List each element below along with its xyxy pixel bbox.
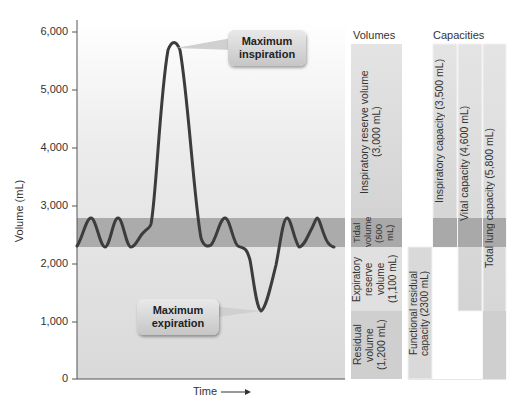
erv-label: Expiratory reserve volume (1,100 mL) (351, 249, 402, 309)
frc-label: Functional residual capacity (2300 mL) (408, 250, 433, 376)
max-inspiration-callout: Maximum inspiration (228, 30, 306, 66)
x-axis-label: Time (193, 385, 217, 397)
volumes-header: Volumes (353, 29, 395, 41)
y-tick-2000: 2,000 (16, 257, 68, 269)
tv-label: Tidal volume (500 mL) (351, 219, 402, 247)
y-tick-marks (72, 32, 77, 379)
ic-band (433, 218, 457, 247)
capacities-header: Capacities (433, 29, 484, 41)
irv-label: Inspiratory reserve volume (3,000 mL) (358, 52, 394, 212)
y-tick-1000: 1,000 (16, 315, 68, 327)
y-tick-6000: 6,000 (16, 25, 68, 37)
max-expiration-callout: Maximum expiration (137, 299, 219, 335)
y-tick-4000: 4,000 (16, 141, 68, 153)
callout-text: expiration (145, 317, 211, 330)
tlc-label: Total lung capacity (5,800 mL) (483, 48, 506, 348)
rv-label: Residual volume (1,200 mL) (351, 313, 402, 377)
y-axis-label: Volume (mL) (13, 180, 25, 242)
callout-text: Maximum (145, 304, 211, 317)
time-arrow-icon (245, 389, 251, 395)
callout-text: inspiration (236, 48, 298, 61)
vc-label: Vital capacity (4,600 mL) (458, 48, 482, 278)
ic-label: Inspiratory capacity (3,500 mL) (433, 48, 457, 214)
y-tick-0: 0 (16, 372, 68, 384)
callout-text: Maximum (236, 35, 298, 48)
y-tick-5000: 5,000 (16, 83, 68, 95)
